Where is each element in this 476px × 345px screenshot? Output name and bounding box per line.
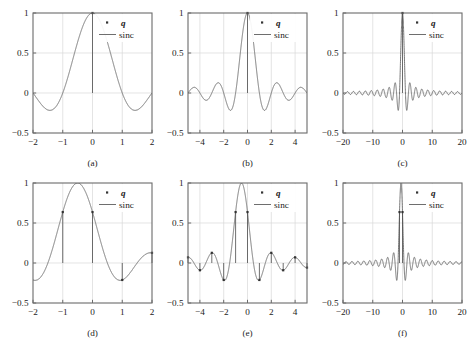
panel-caption-f: (f) <box>398 328 407 338</box>
sample-marker <box>235 211 237 213</box>
y-tick-label: −0.5 <box>322 298 339 308</box>
y-tick-label: 0.5 <box>327 218 339 228</box>
x-tick-label: 1 <box>120 137 125 147</box>
panel-b: −4−2024−0.500.51qsinc(b) <box>167 8 307 168</box>
y-tick-label: −0.5 <box>167 128 184 138</box>
x-tick-label: −10 <box>366 307 381 317</box>
y-tick-label: −0.5 <box>167 298 184 308</box>
y-tick-label: 1 <box>179 178 184 188</box>
legend-label-q: q <box>276 18 281 28</box>
legend-label-sinc: sinc <box>274 30 289 40</box>
y-tick-label: 1 <box>179 8 184 18</box>
legend-label-q: q <box>121 18 126 28</box>
panel-a: −2−1012−0.500.51qsinc(a) <box>12 8 155 168</box>
x-tick-label: −2 <box>219 307 229 317</box>
y-tick-label: 0 <box>334 258 339 268</box>
x-tick-label: 0 <box>245 137 250 147</box>
stems-d <box>62 211 153 281</box>
sample-marker <box>199 269 201 271</box>
x-tick-label: 10 <box>428 137 438 147</box>
y-tick-label: −0.5 <box>12 298 29 308</box>
panel-d: −2−1012−0.500.51qsinc(d) <box>12 178 155 338</box>
stems-a <box>91 12 93 93</box>
legend-label-q: q <box>431 18 436 28</box>
panel-caption-e: (e) <box>242 328 252 338</box>
sample-marker <box>211 252 213 254</box>
y-tick-label: 0 <box>24 88 29 98</box>
x-tick-label: 2 <box>269 307 274 317</box>
legend-marker-icon <box>106 191 108 193</box>
legend-e: qsinc <box>250 184 306 212</box>
x-tick-label: 4 <box>293 137 298 147</box>
y-tick-label: 1 <box>24 178 29 188</box>
y-tick-label: −0.5 <box>12 128 29 138</box>
y-tick-label: 0.5 <box>172 218 184 228</box>
x-tick-label: −4 <box>195 307 205 317</box>
legend-label-sinc: sinc <box>429 30 444 40</box>
x-tick-label: 0 <box>245 307 250 317</box>
y-tick-label: 1 <box>334 178 339 188</box>
sample-marker <box>91 211 93 213</box>
x-tick-label: −10 <box>366 137 381 147</box>
y-tick-label: 0 <box>179 258 184 268</box>
stems-f <box>398 211 403 263</box>
legend-d: qsinc <box>95 184 151 212</box>
sample-marker <box>401 211 403 213</box>
x-tick-label: 0 <box>400 137 405 147</box>
sinc-figure: −2−1012−0.500.51qsinc(a)−4−2024−0.500.51… <box>0 0 476 345</box>
sample-marker <box>121 279 123 281</box>
sample-marker <box>258 279 260 281</box>
x-tick-label: 2 <box>150 137 155 147</box>
y-tick-label: 0.5 <box>17 218 29 228</box>
panel-caption-d: (d) <box>87 328 98 338</box>
x-tick-label: −1 <box>58 307 68 317</box>
y-tick-label: 0.5 <box>172 48 184 58</box>
panel-e: −4−2024−0.500.51qsinc(e) <box>167 178 308 338</box>
x-tick-label: 1 <box>120 307 125 317</box>
y-tick-label: −0.5 <box>322 128 339 138</box>
legend-label-sinc: sinc <box>119 200 134 210</box>
x-tick-label: 0 <box>400 307 405 317</box>
legend-marker-icon <box>261 191 263 193</box>
panel-caption-a: (a) <box>87 158 97 168</box>
legend-label-sinc: sinc <box>429 200 444 210</box>
x-tick-label: −2 <box>28 137 38 147</box>
y-tick-label: 1 <box>24 8 29 18</box>
legend-label-q: q <box>431 188 436 198</box>
panel-f: −20−1001020−0.500.51qsinc(f) <box>322 178 467 338</box>
sample-marker <box>62 211 64 213</box>
legend-marker-icon <box>416 21 418 23</box>
y-tick-label: 0.5 <box>17 48 29 58</box>
legend-b: qsinc <box>250 14 306 42</box>
x-tick-label: 10 <box>428 307 438 317</box>
legend-a: qsinc <box>95 14 151 42</box>
panel-caption-c: (c) <box>397 158 407 168</box>
x-tick-label: −2 <box>219 137 229 147</box>
x-tick-label: 20 <box>457 137 467 147</box>
legend-label-q: q <box>276 188 281 198</box>
x-tick-label: 20 <box>457 307 467 317</box>
figure-canvas: −2−1012−0.500.51qsinc(a)−4−2024−0.500.51… <box>0 0 476 345</box>
y-tick-label: 1 <box>334 8 339 18</box>
legend-label-q: q <box>121 188 126 198</box>
x-tick-label: −1 <box>58 137 68 147</box>
legend-marker-icon <box>106 21 108 23</box>
sample-marker <box>246 211 248 213</box>
sample-marker <box>282 269 284 271</box>
panel-c: −20−1001020−0.500.51qsinc(c) <box>322 8 467 168</box>
y-tick-label: 0 <box>24 258 29 268</box>
stems-b <box>246 12 248 93</box>
x-tick-label: 2 <box>150 307 155 317</box>
legend-f: qsinc <box>405 184 461 212</box>
sample-marker <box>223 279 225 281</box>
legend-label-sinc: sinc <box>274 200 289 210</box>
x-tick-label: −2 <box>28 307 38 317</box>
x-tick-label: 2 <box>269 137 274 147</box>
y-tick-label: 0 <box>334 88 339 98</box>
x-tick-label: −4 <box>195 137 205 147</box>
panel-caption-b: (b) <box>242 158 253 168</box>
legend-c: qsinc <box>405 14 461 42</box>
sample-marker <box>398 211 400 213</box>
legend-marker-icon <box>261 21 263 23</box>
x-tick-label: 4 <box>293 307 298 317</box>
